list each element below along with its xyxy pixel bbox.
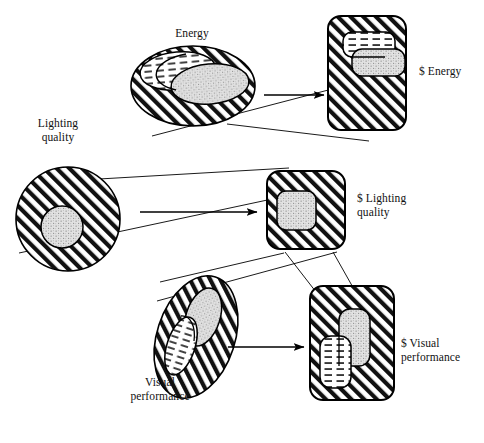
energy-ellipse xyxy=(131,46,255,126)
label-dollar-lighting-quality: $ Lighting quality xyxy=(357,192,437,219)
lighting-quality-inner-stipple xyxy=(41,206,83,248)
dollar-visual-performance-box xyxy=(310,286,394,400)
label-dollar-energy: $ Energy xyxy=(419,65,483,79)
label-energy: Energy xyxy=(152,27,232,41)
lighting-quality-circle xyxy=(16,167,120,271)
dollar-lighting-quality-box xyxy=(267,171,345,249)
dollar-energy-box xyxy=(328,16,406,130)
dollar-energy-inner-stipple xyxy=(352,49,405,76)
label-lighting-quality: Lighting quality xyxy=(18,117,98,144)
diagram-canvas xyxy=(0,0,484,443)
corr-line-visual-a xyxy=(160,253,284,282)
dollar-lighting-quality-inner-stipple xyxy=(277,191,316,230)
concept-diagram: Energy Lighting quality Visual performan… xyxy=(0,0,484,443)
label-visual-performance: Visual performance xyxy=(108,376,212,403)
label-dollar-visual-performance: $ Visual performance xyxy=(401,337,484,364)
dollar-visual-performance-inner-dash xyxy=(320,336,351,388)
